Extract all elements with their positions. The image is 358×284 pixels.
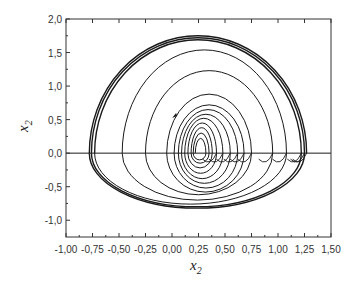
trajectory-loop bbox=[89, 36, 306, 153]
trajectory-loop bbox=[146, 94, 252, 195]
x-tick-label: 1,25 bbox=[295, 244, 315, 255]
y-tick-label: 1,5 bbox=[48, 48, 62, 59]
x-tick-label: 0,25 bbox=[189, 244, 209, 255]
x-tick-label: 1,50 bbox=[321, 244, 341, 255]
x-tick-label: 0,00 bbox=[162, 244, 182, 255]
y-axis-title: x2 bbox=[15, 120, 34, 133]
x-tick-labels: -1,00-0,75-0,50-0,250,000,250,500,751,00… bbox=[55, 244, 342, 255]
direction-arrow-icon bbox=[172, 113, 177, 118]
trajectory-cusp bbox=[291, 153, 305, 162]
x-tick-label: 0,50 bbox=[215, 244, 235, 255]
x-tick-label: 0,75 bbox=[242, 244, 262, 255]
y-tick-label: -0,5 bbox=[45, 182, 63, 193]
y-tick-label: 2,0 bbox=[48, 14, 62, 25]
x-tick-label: -0,75 bbox=[81, 244, 104, 255]
x-tick-label: 1,00 bbox=[268, 244, 288, 255]
plot-area bbox=[66, 36, 331, 208]
x-tick-label: -0,50 bbox=[108, 244, 131, 255]
x-tick-label: -0,25 bbox=[134, 244, 157, 255]
trajectory-cusp bbox=[272, 153, 286, 162]
x-axis-title: x2 bbox=[189, 257, 202, 276]
phase-portrait-chart: -1,00-0,75-0,50-0,250,000,250,500,751,00… bbox=[0, 0, 358, 284]
x-tick-label: -1,00 bbox=[55, 244, 78, 255]
trajectory-cusp bbox=[259, 153, 273, 162]
y-tick-label: 0,5 bbox=[48, 115, 62, 126]
y-tick-label: 0,0 bbox=[48, 148, 62, 159]
y-tick-labels: -1,0-0,50,00,51,01,52,0 bbox=[45, 14, 63, 226]
y-tick-label: -1,0 bbox=[45, 215, 63, 226]
y-tick-label: 1,0 bbox=[48, 81, 62, 92]
